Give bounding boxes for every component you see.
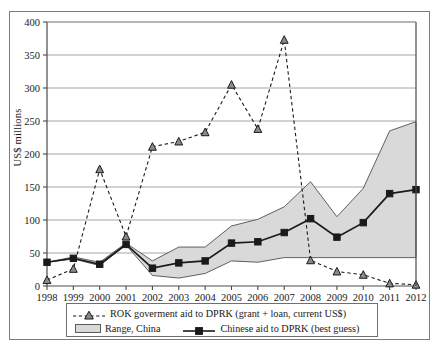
y-tick-label-150: 150 <box>24 182 40 193</box>
x-tick-label-2002: 2002 <box>142 292 163 303</box>
x-tick-label-2001: 2001 <box>116 292 137 303</box>
x-tick-label-2007: 2007 <box>274 292 295 303</box>
marker-china-2005 <box>228 240 234 246</box>
x-tick-label-2008: 2008 <box>300 292 321 303</box>
area-swatch-icon <box>75 324 101 333</box>
y-axis-label: US$ millions <box>12 88 23 188</box>
marker-china-2011 <box>386 190 392 196</box>
square-solid-icon <box>182 323 216 335</box>
x-tick-label-2005: 2005 <box>221 292 242 303</box>
marker-china-2006 <box>255 239 261 245</box>
marker-china-2010 <box>360 219 366 225</box>
marker-china-2007 <box>281 229 287 235</box>
legend-label-china: Chinese aid to DPRK (best guess) <box>220 322 359 336</box>
legend-row-two: Range, China Chinese aid to DPRK (best g… <box>72 321 372 336</box>
y-tick-label-0: 0 <box>35 281 40 292</box>
marker-china-1998 <box>44 259 50 265</box>
legend-label-rok: ROK goverment aid to DPRK (grant + loan,… <box>110 307 346 321</box>
y-tick-label-200: 200 <box>24 149 40 160</box>
legend-item-rok: ROK goverment aid to DPRK (grant + loan,… <box>72 306 372 321</box>
x-tick-label-2010: 2010 <box>353 292 374 303</box>
x-tick-label-1999: 1999 <box>63 292 84 303</box>
x-tick-label-2003: 2003 <box>168 292 189 303</box>
x-tick-label-2000: 2000 <box>89 292 110 303</box>
y-tick-label-100: 100 <box>24 215 40 226</box>
x-tick-label-2011: 2011 <box>379 292 400 303</box>
marker-china-1999 <box>70 255 76 261</box>
x-tick-label-1998: 1998 <box>37 292 58 303</box>
x-tick-label-2009: 2009 <box>326 292 347 303</box>
chart-legend: ROK goverment aid to DPRK (grant + loan,… <box>66 303 378 337</box>
y-tick-label-350: 350 <box>24 50 40 61</box>
figure-root: 0501001502002503003504001998199920002001… <box>0 0 439 349</box>
y-tick-label-50: 50 <box>30 248 41 259</box>
marker-china-2009 <box>334 234 340 240</box>
marker-china-2000 <box>97 261 103 267</box>
y-tick-label-300: 300 <box>24 83 40 94</box>
x-tick-label-2004: 2004 <box>195 292 217 303</box>
marker-china-2001 <box>123 241 129 247</box>
y-tick-label-400: 400 <box>24 17 40 28</box>
chart-svg: 0501001502002503003504001998199920002001… <box>0 0 439 349</box>
legend-label-range: Range, China <box>105 322 160 336</box>
marker-china-2008 <box>307 215 313 221</box>
triangle-dashed-icon <box>72 308 106 320</box>
marker-china-2002 <box>149 265 155 271</box>
x-tick-label-2006: 2006 <box>247 292 268 303</box>
marker-china-2003 <box>176 260 182 266</box>
marker-china-2004 <box>202 258 208 264</box>
y-tick-label-250: 250 <box>24 116 40 127</box>
plot-area: 0501001502002503003504001998199920002001… <box>0 0 439 349</box>
x-tick-label-2012: 2012 <box>406 292 427 303</box>
